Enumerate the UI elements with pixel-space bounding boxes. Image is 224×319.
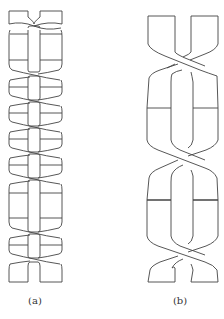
caption-a: (a) bbox=[15, 295, 55, 306]
caption-b: (b) bbox=[160, 295, 200, 306]
braid-figure bbox=[0, 0, 224, 319]
panel-b-diagram bbox=[147, 16, 218, 282]
panel-a-diagram bbox=[9, 11, 62, 282]
